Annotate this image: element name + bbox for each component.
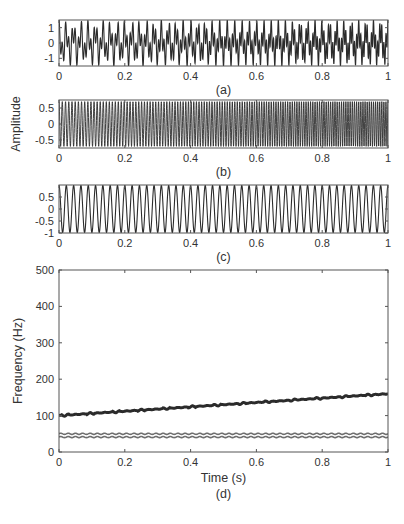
panel-caption-b: (b)	[216, 165, 231, 179]
y-tick-label: 100	[36, 410, 54, 422]
panel-a-composite-signal: 00.20.40.60.8110-1(a)	[44, 20, 391, 97]
y-tick-label: 0	[48, 446, 54, 458]
y-tick-label: -0.5	[35, 215, 54, 227]
x-tick-label: 0.4	[183, 70, 198, 82]
y-tick-label: 300	[36, 337, 54, 349]
y-tick-label: 0.5	[39, 102, 54, 114]
x-tick-label: 0.8	[315, 152, 330, 164]
panel-caption-d: (d)	[216, 487, 231, 501]
y-tick-label: 200	[36, 373, 54, 385]
x-tick-label: 0.2	[117, 237, 132, 249]
x-tick-label: 0.2	[117, 152, 132, 164]
signal-line-a	[59, 20, 388, 66]
x-tick-label: 0.8	[315, 237, 330, 249]
x-tick-label: 1	[385, 152, 391, 164]
x-tick-label: 1	[385, 237, 391, 249]
plot-area-a	[59, 20, 388, 66]
panel-caption-c: (c)	[216, 250, 231, 264]
x-tick-label: 0.6	[249, 456, 264, 468]
x-tick-label: 0.6	[249, 70, 264, 82]
panel-c-tone-signal: 00.20.40.60.810.50-0.5-1(c)	[35, 185, 391, 264]
panel-d-instantaneous-frequency: 00.20.40.60.815004003002001000Frequency …	[11, 264, 391, 501]
x-tick-label: 0.4	[183, 152, 198, 164]
y-tick-label: 500	[36, 264, 54, 276]
x-tick-label: 0.8	[315, 456, 330, 468]
x-axis-label-d: Time (s)	[201, 471, 246, 485]
y-axis-label-b: Amplitude	[9, 96, 23, 152]
frequency-line-2	[59, 436, 388, 437]
x-tick-label: 0	[56, 237, 62, 249]
signal-line-b	[59, 102, 388, 147]
x-tick-label: 0.4	[183, 456, 198, 468]
signal-line-c	[59, 185, 388, 232]
x-tick-label: 0.4	[183, 237, 198, 249]
x-tick-label: 0.8	[315, 70, 330, 82]
y-tick-label: 400	[36, 300, 54, 312]
y-tick-label: 0	[48, 203, 54, 215]
y-tick-label: -1	[44, 52, 54, 64]
x-tick-label: 1	[385, 70, 391, 82]
x-tick-label: 0.6	[249, 237, 264, 249]
x-tick-label: 1	[385, 456, 391, 468]
x-tick-label: 0.2	[117, 70, 132, 82]
y-axis-label-d: Frequency (Hz)	[11, 318, 25, 404]
y-tick-label: 0	[48, 118, 54, 130]
y-tick-label: 0	[48, 37, 54, 49]
plot-area-c	[59, 185, 388, 232]
x-tick-label: 0.2	[117, 456, 132, 468]
frequency-line-1	[59, 433, 388, 434]
x-tick-label: 0.6	[249, 152, 264, 164]
x-tick-label: 0	[56, 456, 62, 468]
plot-area-b	[59, 102, 388, 147]
y-tick-label: -1	[44, 227, 54, 239]
y-tick-label: -0.5	[35, 134, 54, 146]
y-tick-label: 0.5	[39, 191, 54, 203]
plot-area-d	[59, 394, 388, 438]
figure: 00.20.40.60.8110-1(a) 00.20.40.60.810.50…	[0, 0, 404, 524]
y-tick-label: 1	[48, 22, 54, 34]
axes-box-d	[59, 270, 388, 452]
panel-b-chirp-signal: 00.20.40.60.810.50-0.5Amplitude(b)	[9, 96, 391, 179]
x-tick-label: 0	[56, 70, 62, 82]
panel-caption-a: (a)	[216, 83, 231, 97]
frequency-line-0	[59, 394, 388, 416]
x-tick-label: 0	[56, 152, 62, 164]
